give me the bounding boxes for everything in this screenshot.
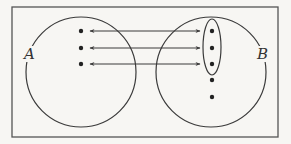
element-dot	[79, 62, 83, 66]
element-dot	[210, 62, 214, 66]
set-b-circle	[156, 17, 266, 127]
set-a-label: A	[22, 45, 35, 63]
element-dot	[210, 95, 214, 99]
mapping-arrows	[90, 31, 200, 64]
element-dot	[210, 78, 214, 82]
set-b	[156, 17, 268, 127]
set-a	[22, 17, 136, 127]
element-dot	[210, 46, 214, 50]
element-dot	[79, 29, 83, 33]
universe-frame	[12, 7, 278, 137]
element-dot	[210, 29, 214, 33]
element-dot	[79, 46, 83, 50]
set-a-circle	[26, 17, 136, 127]
venn-mapping-diagram: A B	[0, 0, 291, 144]
set-b-label: B	[256, 45, 268, 63]
